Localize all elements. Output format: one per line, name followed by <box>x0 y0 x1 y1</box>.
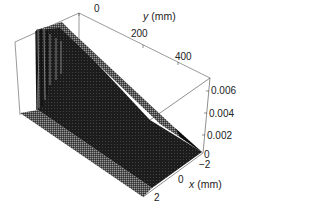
x-tick-2: 2 <box>154 193 160 203</box>
z-tick-0.004: 0.004 <box>209 109 234 119</box>
x-axis-title: x (mm) <box>189 179 222 190</box>
x-tick-0: 0 <box>178 175 184 185</box>
z-tick-0.002: 0.002 <box>207 131 232 141</box>
y-tick-200: 200 <box>131 29 148 39</box>
y-axis-title: y (mm) <box>143 11 176 22</box>
y-tick-0: 0 <box>94 4 100 14</box>
z-tick-0.006: 0.006 <box>211 86 236 96</box>
x-tick-neg2: −2 <box>199 160 210 170</box>
y-tick-400: 400 <box>175 52 192 62</box>
x-axis-unit: (mm) <box>194 178 221 190</box>
y-axis-unit: (mm) <box>148 10 175 22</box>
